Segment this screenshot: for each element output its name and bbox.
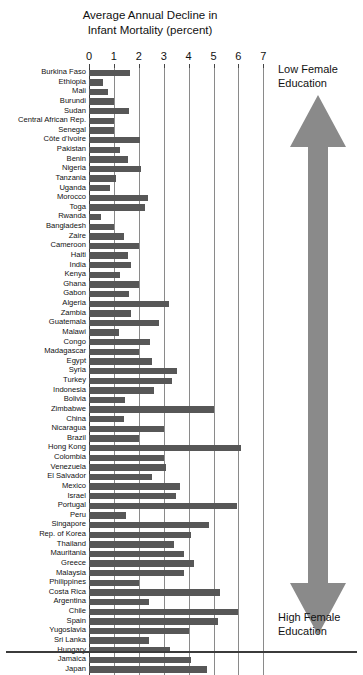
category-label-madagascar: Madagascar	[0, 346, 86, 356]
annotation-low-line-1: Low Female	[278, 62, 363, 76]
category-label-haiti: Haiti	[0, 250, 86, 260]
x-tick-label-0: 0	[80, 50, 98, 62]
x-tick-label-5: 5	[205, 50, 223, 62]
category-label-el-salvador: El Salvador	[0, 471, 86, 481]
category-label-israel: Israel	[0, 491, 86, 501]
bar	[89, 551, 184, 557]
bar	[89, 214, 101, 220]
bar	[89, 127, 114, 133]
bar	[89, 310, 131, 316]
bar	[89, 416, 124, 422]
bar	[89, 580, 139, 586]
bar	[89, 233, 124, 239]
x-tick-label-2: 2	[130, 50, 148, 62]
bar	[89, 204, 145, 210]
category-label-burundi: Burundi	[0, 96, 86, 106]
bar	[89, 185, 110, 191]
category-label-pakistan: Pakistan	[0, 144, 86, 154]
category-label-zaire: Zaire	[0, 231, 86, 241]
category-label-malaysia: Malaysia	[0, 568, 86, 578]
category-label-guatemala: Guatemala	[0, 317, 86, 327]
bar	[89, 474, 152, 480]
category-label-thailand: Thailand	[0, 539, 86, 549]
bar	[89, 108, 129, 114]
category-label-toga: Toga	[0, 202, 86, 212]
category-label-kenya: Kenya	[0, 269, 86, 279]
category-label-zambia: Zambia	[0, 308, 86, 318]
category-label-bangladesh: Bangladesh	[0, 221, 86, 231]
category-label-c-te-d-ivoire: Côte d'Ivoire	[0, 134, 86, 144]
bar	[89, 397, 125, 403]
bar	[89, 493, 176, 499]
annotation-label-low: Low Female Education	[278, 62, 363, 90]
bar	[89, 560, 194, 566]
category-label-syria: Syria	[0, 365, 86, 375]
category-label-central-african-rep: Central African Rep.	[0, 115, 86, 125]
bar	[89, 445, 241, 451]
category-label-sri-lanka: Sri Lanka	[0, 635, 86, 645]
category-label-cameroon: Cameroon	[0, 240, 86, 250]
annotation-high-line-2: Education	[278, 624, 363, 638]
category-label-rwanda: Rwanda	[0, 211, 86, 221]
bar	[89, 628, 189, 634]
x-tick-label-1: 1	[105, 50, 123, 62]
bar	[89, 512, 126, 518]
x-tick-label-4: 4	[180, 50, 198, 62]
bar	[89, 147, 120, 153]
category-label-ghana: Ghana	[0, 279, 86, 289]
bar	[89, 455, 164, 461]
category-label-sudan: Sudan	[0, 106, 86, 116]
bar	[89, 89, 108, 95]
category-label-uganda: Uganda	[0, 183, 86, 193]
annotation-high-line-1: High Female	[278, 610, 363, 624]
bar	[89, 166, 141, 172]
category-label-hong-kong: Hong Kong	[0, 442, 86, 452]
category-label-turkey: Turkey	[0, 375, 86, 385]
category-label-yugoslavia: Yugoslavia	[0, 625, 86, 635]
bar	[89, 70, 130, 76]
category-label-benin: Benin	[0, 154, 86, 164]
bar	[89, 329, 119, 335]
bar	[89, 98, 114, 104]
bar	[89, 599, 149, 605]
category-label-zimbabwe: Zimbabwe	[0, 404, 86, 414]
annotation-label-high: High Female Education	[278, 610, 363, 638]
category-label-brazil: Brazil	[0, 433, 86, 443]
bar	[89, 426, 164, 432]
annotation-low-line-2: Education	[278, 76, 363, 90]
bar	[89, 406, 214, 412]
category-label-algeria: Algeria	[0, 298, 86, 308]
category-label-congo: Congo	[0, 337, 86, 347]
bottom-rule	[6, 651, 357, 654]
category-label-mexico: Mexico	[0, 481, 86, 491]
bar	[89, 339, 150, 345]
bar	[89, 378, 172, 384]
category-label-portugal: Portugal	[0, 500, 86, 510]
category-label-burkina-faso: Burkina Faso	[0, 67, 86, 77]
bar	[89, 301, 169, 307]
bar	[89, 618, 218, 624]
bar	[89, 79, 103, 85]
bar	[89, 224, 114, 230]
category-label-venezuela: Venezuela	[0, 462, 86, 472]
category-label-india: India	[0, 260, 86, 270]
category-label-egypt: Egypt	[0, 356, 86, 366]
bar	[89, 541, 174, 547]
category-label-china: China	[0, 414, 86, 424]
category-label-nigeria: Nigeria	[0, 163, 86, 173]
category-label-rep-of-korea: Rep. of Korea	[0, 529, 86, 539]
category-label-nicaragua: Nicaragua	[0, 423, 86, 433]
bar	[89, 243, 139, 249]
bar	[89, 589, 220, 595]
category-label-spain: Spain	[0, 616, 86, 626]
category-label-mali: Mali	[0, 86, 86, 96]
category-label-senegal: Senegal	[0, 125, 86, 135]
category-label-malawi: Malawi	[0, 327, 86, 337]
bar	[89, 503, 237, 509]
bar	[89, 657, 191, 663]
category-label-mauritania: Mauritania	[0, 548, 86, 558]
bar	[89, 156, 128, 162]
bar	[89, 522, 209, 528]
x-tick-label-7: 7	[254, 50, 272, 62]
